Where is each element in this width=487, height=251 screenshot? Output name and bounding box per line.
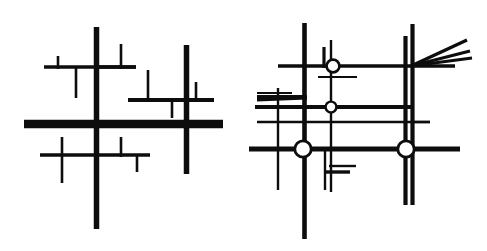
drawing-surface — [0, 0, 487, 251]
node-center — [326, 102, 337, 113]
figure-canvas: Left figure: orthogonal line lattice, no… — [0, 0, 487, 251]
node-top — [327, 60, 340, 73]
node-bottom-left — [295, 141, 311, 157]
node-bottom-right — [398, 141, 414, 157]
